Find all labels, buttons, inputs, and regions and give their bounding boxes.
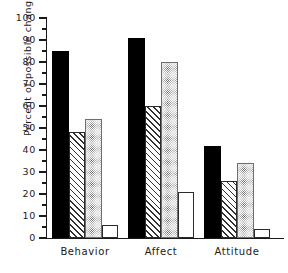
y-tick-major — [39, 215, 47, 216]
y-tick-major — [39, 127, 47, 128]
y-tick-major — [39, 149, 47, 150]
bar-behavior-series-2 — [69, 132, 86, 238]
y-tick-minor — [42, 116, 47, 117]
y-tick-label: 100 — [10, 13, 36, 23]
bar-chart: Percent of possible change 0102030405060… — [0, 0, 288, 273]
y-tick-minor — [42, 160, 47, 161]
y-tick-minor — [42, 28, 47, 29]
bar-behavior-series-4 — [102, 225, 119, 238]
y-tick-label: 10 — [10, 211, 36, 221]
y-tick-major — [39, 39, 47, 40]
bar-behavior-series-1 — [52, 51, 69, 238]
bar-affect-series-2 — [145, 106, 162, 238]
y-tick-label: 90 — [10, 35, 36, 45]
bar-attitude-series-2 — [221, 181, 238, 238]
y-tick-label: 60 — [10, 101, 36, 111]
y-tick-major — [39, 171, 47, 172]
y-tick-minor — [42, 226, 47, 227]
bar-affect-series-4 — [178, 192, 195, 238]
y-tick-minor — [42, 204, 47, 205]
bar-affect-series-3 — [161, 62, 178, 238]
bar-attitude-series-4 — [254, 229, 271, 238]
y-tick-major — [39, 193, 47, 194]
x-axis-line — [46, 238, 284, 239]
y-tick-minor — [42, 50, 47, 51]
y-tick-label: 80 — [10, 57, 36, 67]
y-tick-label: 20 — [10, 189, 36, 199]
bar-affect-series-1 — [128, 38, 145, 238]
y-tick-major — [39, 61, 47, 62]
y-tick-minor — [42, 72, 47, 73]
y-tick-minor — [42, 182, 47, 183]
y-tick-major — [39, 83, 47, 84]
y-tick-major — [39, 17, 47, 18]
y-tick-minor — [42, 94, 47, 95]
y-tick-major — [39, 237, 47, 238]
y-tick-minor — [42, 138, 47, 139]
bar-attitude-series-1 — [204, 146, 221, 238]
y-tick-major — [39, 105, 47, 106]
y-tick-label: 70 — [10, 79, 36, 89]
y-tick-label: 40 — [10, 145, 36, 155]
bar-behavior-series-3 — [85, 119, 102, 238]
y-tick-label: 0 — [10, 233, 36, 243]
bar-attitude-series-3 — [237, 163, 254, 238]
category-label-attitude: Attitude — [187, 246, 287, 257]
y-tick-label: 30 — [10, 167, 36, 177]
y-tick-label: 50 — [10, 123, 36, 133]
